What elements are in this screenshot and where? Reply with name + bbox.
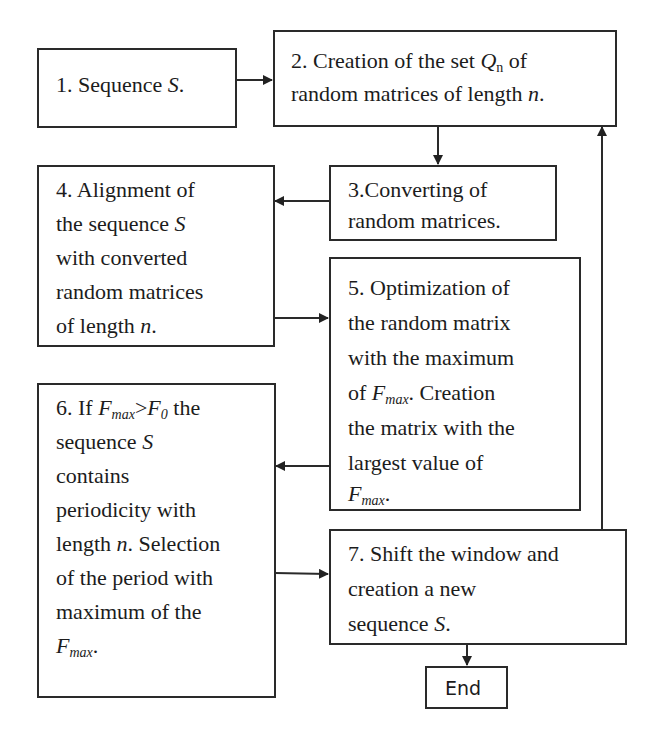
node-6-line-8: Fmax. — [56, 629, 98, 662]
node-6-periodicity-check: 6. If Fmax>F0 the sequence S contains pe… — [37, 383, 276, 698]
node-4-line-4: random matrices — [56, 275, 203, 308]
node-4-line-2: the sequence S — [56, 207, 186, 240]
node-2-line-1: 2. Creation of the set Qn of — [291, 44, 527, 77]
node-2-line-2: random matrices of length n. — [291, 77, 545, 110]
node-3-converting: 3.Converting of random matrices. — [329, 165, 557, 241]
node-7-line-1: 7. Shift the window and — [348, 537, 559, 570]
node-4-line-1: 4. Alignment of — [56, 173, 195, 206]
end-label: End — [445, 672, 481, 705]
node-6-line-3: contains — [56, 459, 129, 492]
node-6-line-5: length n. Selection — [56, 527, 220, 560]
node-1-sequence: 1. Sequence S. — [37, 48, 237, 128]
node-5-line-1: 5. Optimization of — [348, 271, 510, 304]
node-7-line-3: sequence S. — [348, 607, 451, 640]
node-2-creation-of-set: 2. Creation of the set Qn of random matr… — [273, 30, 617, 127]
node-6-line-1: 6. If Fmax>F0 the — [56, 391, 200, 424]
node-end: End — [425, 666, 508, 709]
node-5-line-5: the matrix with the — [348, 411, 515, 444]
node-7-shift-window: 7. Shift the window and creation a new s… — [329, 529, 627, 645]
node-3-line-2: random matrices. — [348, 204, 501, 237]
arrow-6-to-7 — [275, 573, 328, 574]
node-5-line-7: Fmax. — [348, 477, 390, 510]
node-5-optimization: 5. Optimization of the random matrix wit… — [329, 257, 581, 511]
node-1-label: 1. Sequence S. — [56, 68, 184, 101]
node-5-line-4: of Fmax. Creation — [348, 376, 495, 409]
node-4-line-5: of length n. — [56, 309, 157, 342]
node-4-alignment: 4. Alignment of the sequence S with conv… — [37, 165, 275, 347]
node-5-line-2: the random matrix — [348, 306, 511, 339]
node-7-line-2: creation a new — [348, 572, 476, 605]
node-5-line-3: with the maximum — [348, 341, 514, 374]
node-5-line-6: largest value of — [348, 446, 483, 479]
node-6-line-2: sequence S — [56, 425, 153, 458]
node-4-line-3: with converted — [56, 241, 187, 274]
node-3-line-1: 3.Converting of — [348, 173, 487, 206]
node-6-line-4: periodicity with — [56, 493, 196, 526]
node-6-line-6: of the period with — [56, 561, 213, 594]
node-6-line-7: maximum of the — [56, 595, 201, 628]
